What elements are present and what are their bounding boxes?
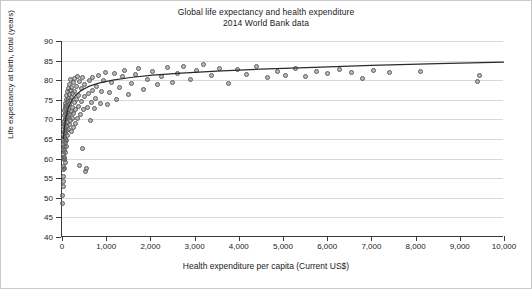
- x-tick-label: 1,000: [96, 242, 116, 251]
- y-tick-mark: [56, 198, 61, 199]
- y-tick-label: 90: [44, 37, 53, 46]
- y-axis-title: Life expectancy at birth, total (years): [6, 10, 15, 139]
- plot-area: 4045505560657075808590 01,0002,0003,0004…: [61, 41, 503, 237]
- y-tick-label: 75: [44, 95, 53, 104]
- fit-curve: [62, 41, 504, 237]
- x-tick-label: 3,000: [185, 242, 205, 251]
- x-tick-label: 0: [60, 242, 64, 251]
- y-tick-label: 85: [44, 56, 53, 65]
- y-tick-mark: [56, 217, 61, 218]
- y-tick-mark: [56, 80, 61, 81]
- x-tick-label: 4,000: [229, 242, 249, 251]
- y-tick-mark: [56, 61, 61, 62]
- chart-figure: Global life expectancy and health expend…: [0, 0, 532, 289]
- chart-subtitle: 2014 World Bank data: [0, 18, 532, 29]
- x-tick-label: 2,000: [140, 242, 160, 251]
- y-tick-mark: [56, 178, 61, 179]
- y-tick-label: 80: [44, 76, 53, 85]
- y-tick-mark: [56, 119, 61, 120]
- y-tick-label: 45: [44, 213, 53, 222]
- y-tick-mark: [56, 237, 61, 238]
- x-tick-label: 10,000: [492, 242, 516, 251]
- y-tick-mark: [56, 100, 61, 101]
- x-tick-label: 6,000: [317, 242, 337, 251]
- y-tick-label: 60: [44, 154, 53, 163]
- x-tick-label: 7,000: [361, 242, 381, 251]
- x-axis-title: Health expenditure per capita (Current U…: [0, 261, 532, 271]
- x-tick-mark: [504, 236, 505, 241]
- x-tick-label: 8,000: [406, 242, 426, 251]
- y-tick-label: 50: [44, 193, 53, 202]
- y-tick-label: 65: [44, 135, 53, 144]
- y-tick-label: 55: [44, 174, 53, 183]
- chart-title: Global life expectancy and health expend…: [0, 7, 532, 18]
- x-tick-label: 9,000: [450, 242, 470, 251]
- y-tick-label: 70: [44, 115, 53, 124]
- y-tick-mark: [56, 139, 61, 140]
- y-tick-label: 40: [44, 233, 53, 242]
- y-tick-mark: [56, 41, 61, 42]
- x-tick-label: 5,000: [273, 242, 293, 251]
